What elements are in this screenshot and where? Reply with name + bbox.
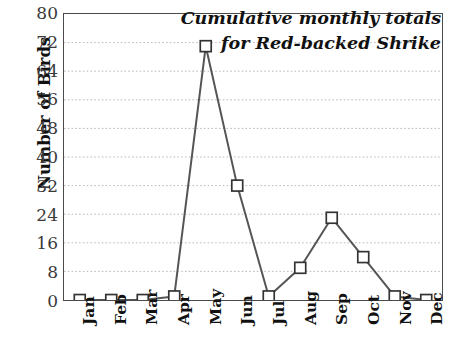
series-polyline [80, 46, 427, 300]
x-tick-label: May [206, 281, 225, 327]
x-tick-label: Jan [79, 281, 98, 327]
y-tick-label: 32 [24, 177, 58, 194]
y-tick-label: 0 [24, 293, 58, 310]
x-tick-label: Jun [237, 281, 256, 327]
x-tick-label: Dec [427, 281, 446, 327]
y-tick-label: 48 [24, 120, 58, 137]
chart-figure: Number of Birds 08162432404856647280 Cum… [0, 0, 451, 348]
y-tick-label: 72 [24, 33, 58, 50]
data-point-marker [326, 212, 337, 223]
x-tick-label: Sep [332, 281, 351, 327]
data-point-marker [358, 252, 369, 263]
x-tick-label: Apr [174, 281, 193, 327]
x-tick-label: Feb [111, 281, 130, 327]
x-tick-label: Nov [396, 281, 415, 327]
x-tick-label: Jul [269, 281, 288, 327]
data-point-marker [232, 180, 243, 191]
y-tick-label: 56 [24, 91, 58, 108]
x-axis-tick-labels: JanFebMarAprMayJunJulAugSepOctNovDec [63, 301, 443, 348]
x-tick-label: Oct [364, 281, 383, 327]
data-series-line [64, 14, 442, 300]
y-axis-tick-labels: 08162432404856647280 [16, 0, 58, 348]
x-tick-label: Aug [301, 281, 320, 327]
y-tick-label: 64 [24, 62, 58, 79]
y-tick-label: 80 [24, 5, 58, 22]
x-tick-label: Mar [142, 281, 161, 327]
y-tick-label: 8 [24, 264, 58, 281]
y-tick-label: 16 [24, 235, 58, 252]
y-tick-label: 40 [24, 149, 58, 166]
plot-area [63, 13, 443, 301]
y-tick-label: 24 [24, 206, 58, 223]
data-point-marker [200, 41, 211, 52]
data-point-marker [295, 262, 306, 273]
